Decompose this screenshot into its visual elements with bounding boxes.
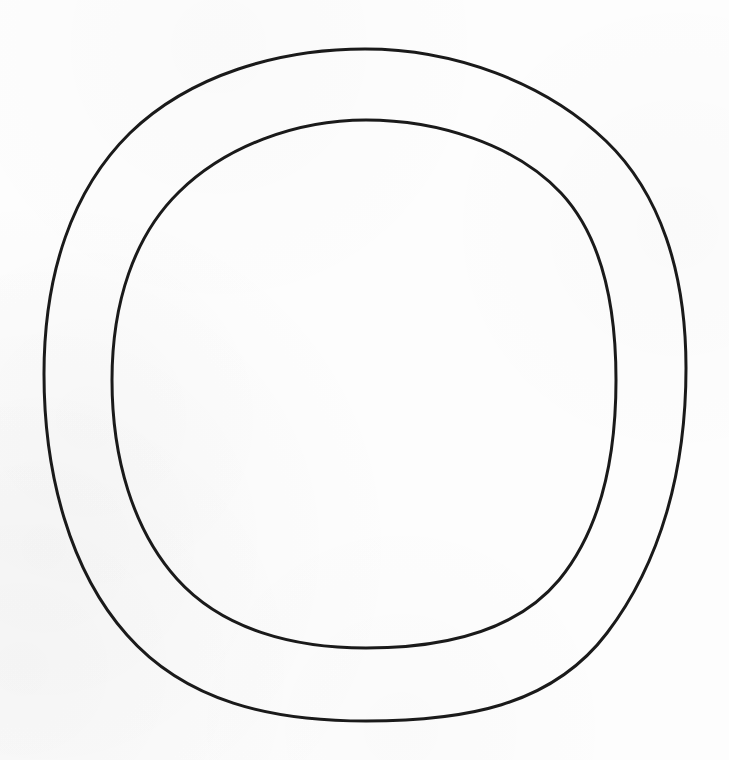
concentric-circles-figure: Concentric Circles Drawing Hand-drawn li… — [0, 0, 729, 760]
outer-circle — [44, 49, 686, 721]
drawing-canvas: Concentric Circles Drawing Hand-drawn li… — [0, 0, 729, 760]
inner-circle — [112, 120, 616, 648]
